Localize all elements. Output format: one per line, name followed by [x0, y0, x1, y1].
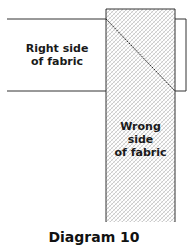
right-side-label: Right side of fabric — [17, 42, 97, 68]
wrong-side-label-line3: of fabric — [106, 146, 175, 159]
diagram-caption: Diagram 10 — [0, 229, 188, 245]
wrong-side-label-line1: Wrong — [106, 120, 175, 133]
wrong-side-label-line2: side — [106, 133, 175, 146]
wrong-side-strip — [106, 9, 175, 222]
wrong-side-label: Wrong side of fabric — [106, 120, 175, 159]
right-side-label-line1: Right side — [17, 42, 97, 55]
right-side-label-line2: of fabric — [17, 55, 97, 68]
folded-end-outline — [175, 19, 186, 91]
